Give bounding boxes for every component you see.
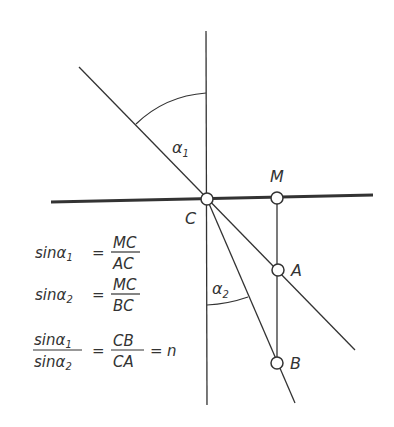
point-b bbox=[271, 357, 283, 369]
refraction-diagram: C M A B α1 α2 sinα1 = MC AC sinα2 = MC B… bbox=[0, 0, 394, 427]
svg-text:sinα1: sinα1 bbox=[35, 244, 73, 263]
point-m bbox=[271, 192, 283, 204]
point-a bbox=[272, 264, 284, 276]
svg-text:MC: MC bbox=[113, 276, 137, 294]
svg-text:sinα2: sinα2 bbox=[35, 286, 73, 305]
point-c bbox=[201, 193, 213, 205]
label-b: B bbox=[290, 354, 301, 373]
svg-text:n: n bbox=[167, 342, 177, 360]
svg-text:=: = bbox=[92, 342, 105, 360]
label-alpha1: α1 bbox=[172, 138, 189, 159]
svg-text:sinα2: sinα2 bbox=[34, 353, 72, 372]
svg-text:=: = bbox=[150, 342, 163, 360]
label-m: M bbox=[270, 167, 284, 186]
svg-text:=: = bbox=[92, 244, 105, 262]
equation-1: sinα1 = MC AC bbox=[35, 234, 140, 273]
svg-text:sinα1: sinα1 bbox=[34, 331, 72, 350]
svg-text:MC: MC bbox=[113, 234, 137, 252]
alpha1-arc bbox=[136, 93, 206, 124]
svg-text:CB: CB bbox=[113, 332, 134, 350]
svg-text:CA: CA bbox=[113, 353, 134, 371]
label-a: A bbox=[290, 261, 302, 280]
refracted-ray-line bbox=[207, 199, 295, 403]
normal-line bbox=[206, 31, 207, 405]
label-c: C bbox=[185, 209, 197, 228]
svg-text:=: = bbox=[92, 286, 105, 304]
label-alpha2: α2 bbox=[212, 279, 229, 300]
equation-3: sinα1 sinα2 = CB CA = n bbox=[33, 331, 177, 372]
equation-2: sinα2 = MC BC bbox=[35, 276, 140, 315]
svg-text:AC: AC bbox=[112, 255, 134, 273]
svg-text:BC: BC bbox=[113, 297, 134, 315]
